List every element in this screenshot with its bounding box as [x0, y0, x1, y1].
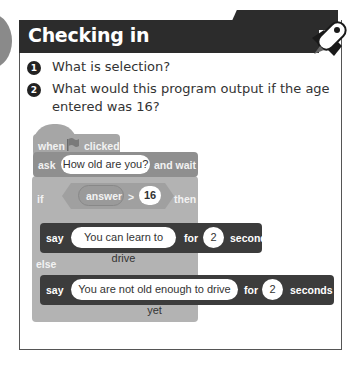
else-label: else	[36, 258, 56, 270]
then-label: then	[174, 193, 196, 205]
question-1-text: What is selection?	[52, 58, 170, 76]
ask-and-wait-label: and wait	[154, 159, 196, 171]
question-2-line2: entered was 16?	[52, 98, 160, 116]
say-1-seconds-input[interactable]: 2	[203, 227, 224, 248]
say-1-for-label: for	[184, 232, 198, 244]
say-2-message-input[interactable]: You are not old enough to drive yet	[71, 279, 238, 300]
ask-label: ask	[38, 159, 56, 171]
question-number-2: 2	[27, 83, 41, 97]
hat-label-when: when	[38, 140, 65, 152]
if-label: if	[37, 193, 43, 205]
question-2-line1: What would this program output if the ag…	[52, 80, 330, 98]
say-2-label: say	[46, 284, 64, 296]
ask-question-input[interactable]: How old are you?	[61, 155, 150, 174]
say-1-seconds-label: seconds	[230, 232, 273, 244]
greater-than-operator: >	[128, 191, 134, 203]
question-number-1: 1	[27, 61, 41, 75]
hat-label-clicked: clicked	[84, 140, 120, 152]
say-2-for-label: for	[244, 284, 258, 296]
say-1-label: say	[46, 232, 64, 244]
compare-value-input[interactable]: 16	[139, 186, 161, 205]
rocket-icon	[306, 10, 358, 60]
green-flag-icon	[66, 138, 80, 151]
say-2-seconds-label: seconds	[290, 284, 333, 296]
side-decoration	[0, 14, 12, 68]
panel-title: Checking in	[28, 24, 149, 46]
say-1-message-input[interactable]: You can learn to drive	[71, 227, 176, 248]
answer-label: answer	[86, 190, 122, 202]
say-2-seconds-input[interactable]: 2	[262, 279, 283, 300]
